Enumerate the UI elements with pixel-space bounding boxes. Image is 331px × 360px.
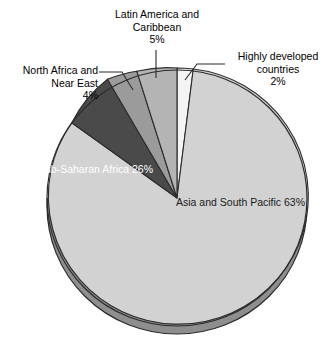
pie-label-value: 4% bbox=[2, 89, 98, 102]
pie-label-line2: countries bbox=[226, 63, 330, 76]
pie-label-value: 63% bbox=[284, 196, 305, 208]
pie-label-value: 5% bbox=[96, 33, 218, 46]
pie-label-value: 2% bbox=[226, 75, 330, 88]
pie-label-line2: Caribbean bbox=[96, 21, 218, 34]
pie-label-line1: Latin America and bbox=[96, 8, 218, 21]
pie-label-north-africa-and-near-east: North Africa and Near East 4% bbox=[2, 64, 98, 102]
pie-label-line1: Asia and bbox=[176, 196, 217, 208]
pie-label-line1: North Africa and bbox=[2, 64, 98, 77]
pie-label-asia-and-south-pacific: Asia and South Pacific 63% bbox=[176, 196, 272, 209]
pie-label-line1: Highly developed bbox=[226, 50, 330, 63]
pie-label-line1: Sub-Saharan bbox=[38, 163, 100, 175]
pie-label-line2: Africa bbox=[102, 163, 129, 175]
pie-label-sub-saharan-africa: Sub-Saharan Africa 26% bbox=[38, 163, 134, 176]
pie-label-line2: South Pacific bbox=[220, 196, 281, 208]
pie-chart: Latin America and Caribbean 5% Highly de… bbox=[0, 0, 331, 360]
pie-label-line2: Near East bbox=[2, 77, 98, 90]
pie-label-highly-developed-countries: Highly developed countries 2% bbox=[226, 50, 330, 88]
pie-label-latin-america-and-caribbean: Latin America and Caribbean 5% bbox=[96, 8, 218, 46]
pie-label-value: 26% bbox=[132, 163, 153, 175]
